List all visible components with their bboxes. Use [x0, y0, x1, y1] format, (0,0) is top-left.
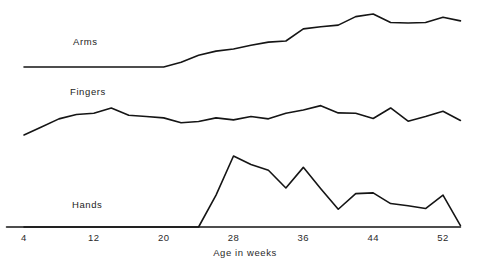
- series-label-hands: Hands: [72, 199, 102, 210]
- x-tick-label-4: 4: [21, 232, 27, 243]
- x-tick-label-44: 44: [367, 232, 379, 243]
- chart-canvas: Arms Fingers Hands 4122028364452 Age in …: [0, 0, 478, 272]
- series-arms-group: Arms: [24, 14, 460, 67]
- series-line-hands: [24, 156, 460, 227]
- line-chart-figure: Arms Fingers Hands 4122028364452 Age in …: [0, 0, 478, 272]
- series-hands-group: Hands: [24, 156, 460, 227]
- x-tick-label-12: 12: [88, 232, 100, 243]
- x-tick-label-28: 28: [228, 232, 240, 243]
- series-label-fingers: Fingers: [70, 86, 106, 97]
- series-line-fingers: [24, 106, 460, 135]
- x-tick-label-20: 20: [158, 232, 170, 243]
- x-tick-label-52: 52: [437, 232, 449, 243]
- x-axis-title: Age in weeks: [213, 247, 277, 258]
- x-axis-tick-labels: 4122028364452: [21, 232, 449, 243]
- series-fingers-group: Fingers: [24, 86, 460, 135]
- x-tick-label-36: 36: [298, 232, 310, 243]
- series-label-arms: Arms: [73, 36, 98, 47]
